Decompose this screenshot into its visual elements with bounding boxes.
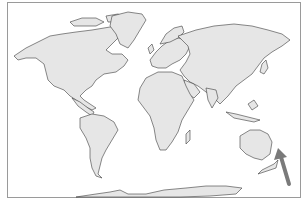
new-zealand <box>258 160 278 174</box>
india <box>206 88 218 108</box>
madagascar <box>186 130 190 144</box>
antarctica <box>76 186 242 197</box>
indonesia <box>226 100 260 122</box>
british-isles <box>148 44 154 54</box>
australia <box>240 130 272 160</box>
europe <box>150 38 190 68</box>
north-america <box>14 26 128 110</box>
world-map <box>0 0 307 204</box>
world-map-svg <box>0 0 307 204</box>
greenland <box>110 12 146 48</box>
south-america <box>80 114 118 178</box>
